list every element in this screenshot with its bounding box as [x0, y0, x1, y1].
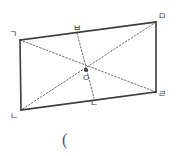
dotted-lines-group: [20, 22, 156, 110]
figure-canvas: ㄱ ㅁ ㄹ ㄴ ㅂ ㄷ O (: [0, 0, 179, 156]
caption-paren: (: [62, 132, 67, 148]
vertex-label-g: ㄱ: [9, 30, 17, 39]
segment-b-d: [77, 33, 94, 98]
edge-g-m: [20, 22, 156, 40]
edge-n-g: [20, 40, 21, 110]
vertex-label-n: ㄴ: [10, 112, 18, 121]
vertex-label-r: ㄹ: [158, 90, 166, 99]
center-point-marker: [84, 68, 88, 72]
vertex-label-m: ㅁ: [158, 12, 166, 21]
diagonal-m-n: [21, 22, 156, 110]
midpoint-label-d: ㄷ: [90, 99, 98, 108]
edge-r-n: [21, 92, 156, 110]
center-marker-group: [84, 68, 88, 72]
midpoint-label-b: ㅂ: [73, 24, 81, 33]
center-point-label-o: O: [83, 74, 89, 82]
geometry-figure: [0, 0, 179, 156]
